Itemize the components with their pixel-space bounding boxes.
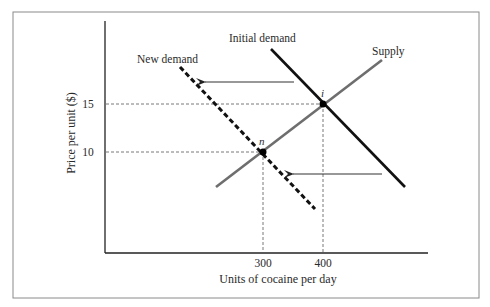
equilibrium-point-n [260,149,267,156]
x-axis-label: Units of cocaine per day [219,272,336,286]
supply-label: Supply [372,45,405,58]
new-demand-label: New demand [137,53,198,65]
x-tick-400: 400 [314,257,332,269]
x-tick-300: 300 [254,257,272,269]
y-tick-10: 10 [82,146,94,158]
equilibrium-point-i [320,101,327,108]
initial-demand-label: Initial demand [229,32,296,44]
supply-demand-chart: i n Initial demand New demand Supply 15 … [0,0,490,307]
point-n-label: n [259,135,265,147]
point-i-label: i [321,87,324,99]
y-axis-label: Price per unit ($) [64,92,78,174]
y-tick-15: 15 [82,98,94,110]
